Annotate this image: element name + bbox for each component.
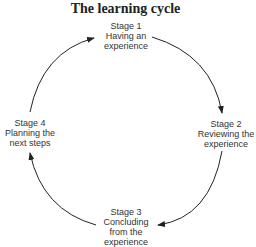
stage-4-label: Stage 4 Planning the next steps [0,118,60,148]
arrow-stage3-to-stage4 [30,153,96,225]
stage-2-label: Stage 2 Reviewing the experience [196,119,256,149]
stage-3-label: Stage 3 Concluding from the experience [95,207,157,247]
arrow-stage2-to-stage3 [158,151,222,225]
arrow-stage4-to-stage1 [30,38,94,112]
stage-1-label: Stage 1 Having an experience [88,21,164,51]
